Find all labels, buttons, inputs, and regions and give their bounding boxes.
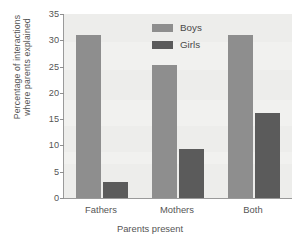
legend-swatch-girls — [152, 41, 173, 49]
y-axis-tick-label: 10 — [33, 140, 59, 150]
y-axis-tick-label: 5 — [33, 167, 59, 177]
bar-mothers-boys — [152, 65, 177, 198]
y-axis-tick-label: 20 — [33, 88, 59, 98]
bar-both-boys — [228, 35, 253, 198]
bar-both-girls — [255, 113, 280, 198]
y-axis-tick — [60, 145, 64, 146]
x-axis-tick-label-both: Both — [243, 204, 262, 215]
y-axis-tick-label: 35 — [33, 9, 59, 19]
x-axis-tick-label-mothers: Mothers — [160, 204, 194, 215]
y-axis-tick-label: 25 — [33, 62, 59, 72]
y-axis-tick — [60, 172, 64, 173]
bar-mothers-girls — [179, 149, 204, 198]
y-axis-tick-label: 0 — [33, 193, 59, 203]
y-axis-title: Percentage of interactions where parents… — [8, 0, 38, 162]
y-axis-tick — [60, 67, 64, 68]
bar-chart-figure: Percentage of interactions where parents… — [0, 0, 300, 246]
y-axis-tick — [60, 198, 64, 199]
bar-fathers-girls — [103, 182, 128, 198]
legend-item-girls[interactable]: Girls — [152, 39, 200, 50]
x-axis-tick-label-fathers: Fathers — [85, 204, 117, 215]
y-axis-tick — [60, 119, 64, 120]
legend-label-boys: Boys — [180, 22, 202, 33]
bar-fathers-boys — [76, 35, 101, 198]
y-axis-tick — [60, 40, 64, 41]
y-axis-tick-label: 15 — [33, 114, 59, 124]
y-axis-title-line-2: where parents explained — [23, 18, 33, 116]
x-axis-title: Parents present — [0, 223, 300, 234]
y-axis-tick — [60, 93, 64, 94]
y-axis-tick-label: 30 — [33, 35, 59, 45]
legend-swatch-boys — [152, 24, 173, 32]
legend-label-girls: Girls — [180, 39, 200, 50]
y-axis-tick — [60, 14, 64, 15]
legend-item-boys[interactable]: Boys — [152, 22, 202, 33]
